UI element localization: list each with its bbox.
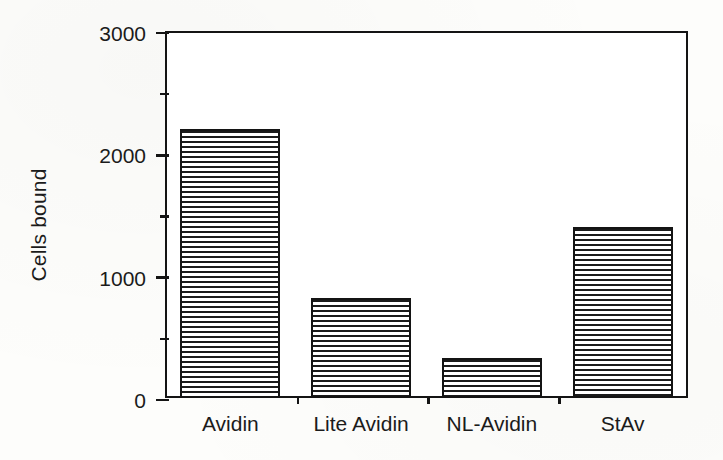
bar-chart-figure: Cells bound 0100020003000 AvidinLite Avi… — [0, 0, 723, 460]
bar — [442, 358, 542, 398]
x-axis-category-label: StAv — [601, 413, 645, 434]
bar — [311, 298, 411, 398]
y-axis-tick-label: 3000 — [99, 23, 146, 44]
bars-layer — [165, 31, 688, 398]
x-axis-category-label: NL-Avidin — [447, 413, 538, 434]
y-axis-tick-label: 0 — [134, 390, 146, 411]
bar — [573, 227, 673, 398]
bar — [180, 129, 280, 398]
y-axis-tick-label: 1000 — [99, 267, 146, 288]
y-axis-label: Cells bound — [27, 75, 51, 375]
x-axis-category-label: Avidin — [202, 413, 259, 434]
y-axis-tick-major: 0 — [156, 399, 169, 402]
y-axis-tick-label: 2000 — [99, 145, 146, 166]
x-axis-category-label: Lite Avidin — [313, 413, 408, 434]
